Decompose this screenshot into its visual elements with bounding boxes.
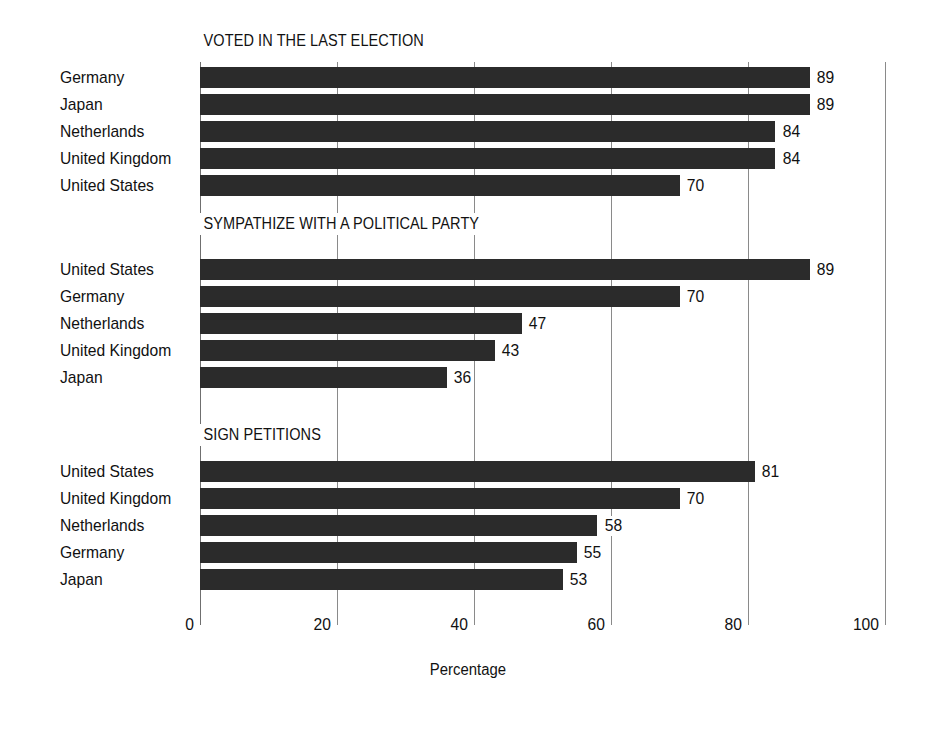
bar-row: United States 70 <box>0 172 935 199</box>
bar-row: Netherlands 84 <box>0 118 935 145</box>
bar-value-label: 55 <box>581 543 604 563</box>
panel-rows: United States 81 United Kingdom 70 Nethe… <box>0 458 935 593</box>
bar-row: Japan 36 <box>0 364 935 391</box>
category-label: United Kingdom <box>60 489 175 509</box>
bar-value-label: 53 <box>567 570 590 590</box>
bar <box>200 67 810 88</box>
bar-row: Netherlands 58 <box>0 512 935 539</box>
category-label: United States <box>60 260 158 280</box>
bar <box>200 121 775 142</box>
category-label: Japan <box>60 368 106 388</box>
bar-row: Germany 70 <box>0 283 935 310</box>
panel-title: SYMPATHIZE WITH A POLITICAL PARTY <box>200 213 484 235</box>
bar-value-label: 43 <box>499 341 522 361</box>
xtick-label-0: 0 <box>166 615 194 635</box>
category-label: Germany <box>60 543 128 563</box>
xtick-label-80: 80 <box>705 615 742 635</box>
bar-chart: VOTED IN THE LAST ELECTION Germany 89 Ja… <box>0 0 935 736</box>
bar-value-label: 47 <box>526 314 549 334</box>
bar-row: Japan 89 <box>0 91 935 118</box>
panel-rows: United States 89 Germany 70 Netherlands … <box>0 256 935 391</box>
x-axis-title: Percentage <box>0 661 935 679</box>
bar-value-label: 70 <box>684 176 707 196</box>
panel-title: VOTED IN THE LAST ELECTION <box>200 30 429 52</box>
bar-value-label: 36 <box>451 368 474 388</box>
category-label: United States <box>60 462 158 482</box>
bar <box>200 259 810 280</box>
bar-row: Germany 55 <box>0 539 935 566</box>
category-label: United Kingdom <box>60 149 175 169</box>
bar-value-label: 70 <box>684 287 707 307</box>
bar-value-label: 84 <box>780 122 803 142</box>
bar <box>200 94 810 115</box>
bar-row: United States 81 <box>0 458 935 485</box>
category-label: Germany <box>60 287 128 307</box>
bar-value-label: 84 <box>780 149 803 169</box>
bar <box>200 286 680 307</box>
category-label: United States <box>60 176 158 196</box>
bar <box>200 488 680 509</box>
bar-value-label: 89 <box>814 260 837 280</box>
xtick-label-40: 40 <box>431 615 468 635</box>
xtick-label-100: 100 <box>833 615 879 635</box>
xtick-label-60: 60 <box>568 615 605 635</box>
bar-value-label: 81 <box>759 462 782 482</box>
bar <box>200 313 522 334</box>
bar-row: United Kingdom 43 <box>0 337 935 364</box>
bar <box>200 175 680 196</box>
bar-value-label: 89 <box>814 68 837 88</box>
bar-row: United Kingdom 70 <box>0 485 935 512</box>
bar-row: Germany 89 <box>0 64 935 91</box>
bar-value-label: 58 <box>602 516 625 536</box>
bar-row: Netherlands 47 <box>0 310 935 337</box>
bar <box>200 515 597 536</box>
x-axis-title-text: Percentage <box>429 661 505 679</box>
panel-rows: Germany 89 Japan 89 Netherlands 84 Unite… <box>0 64 935 199</box>
category-label: Netherlands <box>60 122 148 142</box>
xtick-label-20: 20 <box>294 615 331 635</box>
bar <box>200 340 495 361</box>
category-label: Germany <box>60 68 128 88</box>
bar-row: United Kingdom 84 <box>0 145 935 172</box>
bar <box>200 148 775 169</box>
category-label: Japan <box>60 95 106 115</box>
bar-value-label: 89 <box>814 95 837 115</box>
bar <box>200 461 755 482</box>
category-label: United Kingdom <box>60 341 175 361</box>
category-label: Netherlands <box>60 314 148 334</box>
bar <box>200 542 577 563</box>
bar-row: United States 89 <box>0 256 935 283</box>
bar <box>200 367 447 388</box>
bar-row: Japan 53 <box>0 566 935 593</box>
panel-title: SIGN PETITIONS <box>200 424 326 446</box>
bar <box>200 569 563 590</box>
category-label: Japan <box>60 570 106 590</box>
bar-value-label: 70 <box>684 489 707 509</box>
category-label: Netherlands <box>60 516 148 536</box>
